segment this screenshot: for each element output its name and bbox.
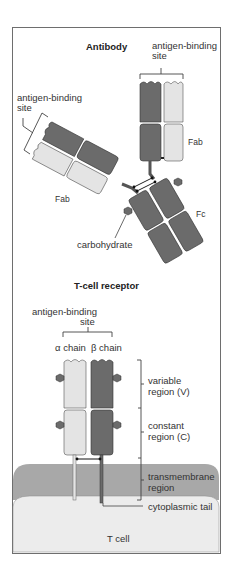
carbohydrate-label: carbohydrate: [77, 239, 132, 250]
cytoplasmic-tail-label: cytoplasmic tail: [148, 501, 212, 512]
bracket-top-fab: [140, 68, 183, 79]
fc-region: [128, 178, 204, 265]
variable-region-line2: region (V): [148, 386, 190, 397]
antigen-binding-site-left-line2: site: [17, 102, 32, 113]
upper-fab-heavy-chain: [140, 82, 161, 162]
tcr-title: T-cell receptor: [74, 280, 139, 291]
transmembrane-line1: transmembrane: [148, 471, 215, 482]
left-fab: [31, 121, 120, 195]
carbohydrate-icon: [113, 374, 121, 382]
antigen-binding-site-top-line2: site: [152, 50, 167, 61]
fc-label: Fc: [196, 209, 205, 220]
carbohydrate-icon: [124, 207, 132, 215]
carbohydrate-icon: [174, 178, 182, 186]
tcr-antigen-binding-line2: site: [80, 316, 95, 327]
carbohydrate-icon: [113, 421, 121, 429]
cell-membrane: [13, 464, 219, 500]
upper-fab-light-chain: [164, 82, 183, 162]
antibody-title: Antibody: [86, 41, 127, 52]
carbohydrate-icon: [56, 421, 64, 429]
carbohydrate-icon: [56, 374, 64, 382]
variable-region-line1: variable: [148, 375, 181, 386]
beta-chain-label: β chain: [91, 342, 122, 353]
fab-right-label: Fab: [188, 137, 203, 148]
t-cell-label: T cell: [107, 533, 130, 544]
bracket-tcr: [63, 327, 112, 337]
alpha-chain-label: α chain: [55, 342, 86, 353]
constant-region-line1: constant: [148, 420, 184, 431]
transmembrane-line2: region: [148, 482, 174, 493]
constant-region-line2: region (C): [148, 431, 190, 442]
fab-left-label: Fab: [55, 194, 70, 205]
